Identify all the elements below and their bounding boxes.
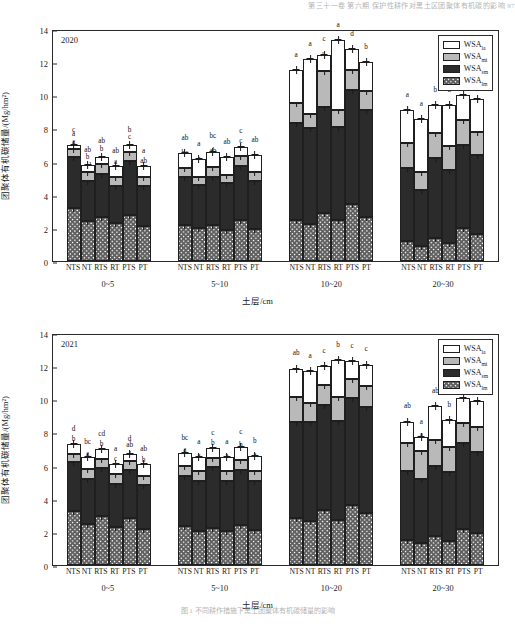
- legend-item[interactable]: WSAlm: [443, 76, 488, 87]
- stacked-bar[interactable]: abbbc: [317, 335, 331, 565]
- depth-category-label: 0~5: [54, 280, 162, 289]
- error-bar: [349, 48, 356, 49]
- legend-item[interactable]: WSAlm: [443, 380, 488, 391]
- bar-segment-WSA_lm: [317, 510, 331, 566]
- bar-segment-WSA_lm: [109, 527, 123, 565]
- stacked-bar[interactable]: cbaab: [248, 31, 262, 261]
- bar-segment-WSA_sm: [359, 407, 373, 513]
- stacked-bar[interactable]: aabd: [67, 335, 81, 565]
- x-axis-tick-label: RT: [108, 567, 122, 576]
- legend-item[interactable]: WSAla: [443, 344, 488, 355]
- stacked-bar[interactable]: cdcaba: [289, 31, 303, 261]
- stacked-bar[interactable]: abbbc: [234, 335, 248, 565]
- stacked-bar[interactable]: cbaab: [220, 31, 234, 261]
- stacked-bar[interactable]: bababd: [123, 335, 137, 565]
- stacked-bar[interactable]: cdcaa: [331, 31, 345, 261]
- stacked-bar[interactable]: aacc: [345, 335, 359, 565]
- significance-letter: ab: [293, 350, 300, 357]
- bar-segment-WSA_la: [303, 371, 317, 403]
- stacked-bar[interactable]: cdaa: [414, 335, 428, 565]
- stacked-bar[interactable]: aacd: [345, 31, 359, 261]
- stacked-bar[interactable]: ddba: [414, 31, 428, 261]
- stacked-bar[interactable]: cababa: [192, 31, 206, 261]
- stacked-bar[interactable]: bbabbc: [206, 31, 220, 261]
- bar-segment-WSA_la: [442, 105, 456, 146]
- bar-segment-WSA_sm: [81, 479, 95, 524]
- error-bar: [112, 165, 119, 166]
- stacked-bar[interactable]: bbbcab: [178, 31, 192, 261]
- bar-segment-WSA_la: [428, 105, 442, 132]
- significance-letter: d: [72, 426, 76, 433]
- bar-segment-WSA_mi: [414, 451, 428, 479]
- stacked-bar[interactable]: ccaab: [400, 335, 414, 565]
- error-bar: [474, 98, 481, 99]
- legend-label: WSAsm: [464, 368, 488, 379]
- bar-segment-WSA_sm: [345, 398, 359, 506]
- legend-swatch-mi: [443, 53, 460, 61]
- x-axis-tick-label: NTS: [178, 567, 192, 576]
- stacked-bar[interactable]: babc: [359, 335, 373, 565]
- bar-segment-WSA_lm: [220, 531, 234, 565]
- stacked-bar[interactable]: dcdaa: [303, 335, 317, 565]
- bar-segment-WSA_lm: [456, 228, 470, 261]
- bar-segment-WSA_sm: [123, 161, 137, 215]
- x-axis-tick-label: NTS: [401, 263, 415, 272]
- legend-item[interactable]: WSAsm: [443, 64, 488, 75]
- stacked-bar[interactable]: bcbbcb: [359, 31, 373, 261]
- y-axis-tick-mark: [53, 467, 57, 468]
- bar-segment-WSA_lm: [359, 217, 373, 261]
- stacked-bar[interactable]: dcaa: [303, 31, 317, 261]
- stacked-bar[interactable]: dbcca: [109, 335, 123, 565]
- stacked-bar[interactable]: cdcab: [331, 335, 345, 565]
- legend-item[interactable]: WSAla: [443, 40, 488, 51]
- legend-item[interactable]: WSAmi: [443, 356, 488, 367]
- bar-segment-WSA_lm: [137, 529, 151, 565]
- x-axis-labels-2020: NTSNTRTSRTPTSPT0~5NTSNTRTSRTPTSPT5~10NTS…: [52, 263, 499, 289]
- stacked-bar[interactable]: ecbab: [95, 31, 109, 261]
- bar-segment-WSA_lm: [331, 520, 345, 565]
- bar-groups-2021: aabdcaabcabbbcddbccabababddcbabbbabcccaa…: [53, 335, 498, 565]
- significance-letter: a: [309, 353, 312, 360]
- stacked-bar[interactable]: abbbcd: [95, 335, 109, 565]
- bar-segment-WSA_lm: [303, 521, 317, 565]
- y-axis-tick: 2: [44, 225, 53, 235]
- stacked-bar[interactable]: cdaab: [289, 335, 303, 565]
- x-axis-group: NTSNTRTSRTPTSPT5~10: [164, 263, 276, 289]
- stacked-bar[interactable]: cbab: [248, 335, 262, 565]
- stacked-bar[interactable]: ddaab: [109, 31, 123, 261]
- legend-swatch-la: [443, 41, 460, 49]
- legend-item[interactable]: WSAsm: [443, 368, 488, 379]
- bar-segment-WSA_sm: [220, 481, 234, 531]
- x-axis-tick-label: RT: [220, 567, 234, 576]
- stacked-bar[interactable]: nacb: [123, 31, 137, 261]
- error-bar: [237, 146, 244, 147]
- stacked-bar[interactable]: ccaa: [192, 335, 206, 565]
- y-axis-tick-mark: [53, 533, 57, 534]
- stacked-bar[interactable]: bbabc: [178, 335, 192, 565]
- bar-segment-WSA_la: [414, 119, 428, 172]
- legend-item[interactable]: WSAmi: [443, 52, 488, 63]
- x-axis-tick-label: RTS: [317, 567, 331, 576]
- stacked-bar[interactable]: ccdaa: [400, 31, 414, 261]
- stacked-bar[interactable]: aaac: [67, 31, 81, 261]
- stacked-bar[interactable]: dcaba: [137, 31, 151, 261]
- error-bar: [307, 58, 314, 59]
- bar-segment-WSA_sm: [456, 443, 470, 529]
- stacked-bar[interactable]: bbbc: [317, 31, 331, 261]
- significance-letter: c: [239, 128, 242, 135]
- stacked-bar[interactable]: dcbab: [137, 335, 151, 565]
- plot-area-2021: 2021 aabdcaabcabbbcddbccabababddcbabbbab…: [52, 334, 499, 566]
- stacked-bar[interactable]: caabc: [81, 335, 95, 565]
- bar-segment-WSA_sm: [109, 484, 123, 527]
- stacked-bar[interactable]: aacc: [234, 31, 248, 261]
- bar-segment-WSA_sm: [248, 181, 262, 229]
- x-axis-tick-label: NT: [192, 263, 206, 272]
- bar-segment-WSA_sm: [109, 186, 123, 222]
- x-axis-tick-label: PTS: [122, 567, 136, 576]
- x-axis-tick-label: NTS: [66, 263, 80, 272]
- stacked-bar[interactable]: abbc: [206, 335, 220, 565]
- significance-letter: b: [434, 87, 438, 94]
- bar-segment-WSA_sm: [95, 174, 109, 217]
- stacked-bar[interactable]: ccdbab: [81, 31, 95, 261]
- stacked-bar[interactable]: cbcaa: [220, 335, 234, 565]
